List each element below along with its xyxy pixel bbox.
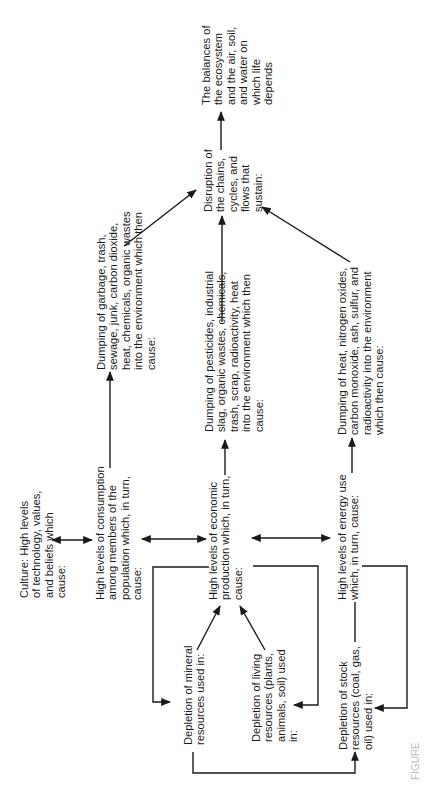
node-living-text: Depletion of living resources (plants, a… (250, 642, 300, 742)
node-dump-garbage-text: Dumping of garbage, trash, sewage, junk,… (95, 210, 157, 370)
arrow-heat-to-disruption (262, 207, 350, 262)
diagram-canvas: The balances of the ecosystem and the ai… (0, 0, 425, 789)
node-mineral-text: Depletion of mineral resources used in: (182, 640, 207, 745)
node-dump-heat-text: Dumping of heat, nitrogen oxides, carbon… (336, 263, 386, 435)
node-balances-text: The balances of the ecosystem and the ai… (200, 13, 274, 105)
node-consumption-text: High levels of consumption among members… (94, 465, 144, 600)
node-disruption-text: Disruption of the chains, cycles, and fl… (202, 146, 264, 212)
figure-caption-text: FIGURE (410, 580, 422, 780)
node-energy-text: High levels of energy use which, in turn… (336, 470, 361, 600)
node-culture-text: Culture: High levels of technology, valu… (18, 480, 68, 598)
node-stock-text: Depletion of stock resources (coal, gas,… (337, 640, 374, 750)
elbow-mineral-to-stock (193, 752, 355, 773)
node-dump-pesticides-text: Dumping of pesticides, industrial slag, … (203, 254, 265, 432)
node-production-text: High levels of economic production which… (207, 475, 244, 600)
